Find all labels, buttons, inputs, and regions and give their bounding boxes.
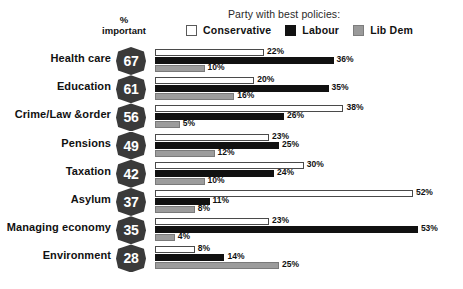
row-label-taxation: Taxation: [66, 165, 111, 177]
row-label-environment: Environment: [43, 249, 111, 261]
bar-value-label: 10%: [208, 62, 225, 72]
legend-swatch-conservative-icon: [186, 25, 197, 36]
chart-row: Education6120%35%16%: [0, 76, 463, 104]
bar-value-label: 5%: [183, 118, 195, 128]
row-label-pensions: Pensions: [61, 137, 111, 149]
importance-caption-line2: important: [93, 25, 155, 36]
bar-value-label: 26%: [287, 110, 304, 120]
bar-conservative: [155, 218, 269, 225]
legend-swatch-libdem-icon: [353, 25, 364, 36]
bar-lib-dem: [155, 65, 205, 72]
bar-value-label: 38%: [346, 102, 363, 112]
bar-value-label: 14%: [227, 251, 244, 261]
chart-legend: Conservative Labour Lib Dem: [186, 24, 427, 36]
legend-title: Party with best policies:: [228, 8, 340, 20]
row-label-crime-law-order: Crime/Law &order: [15, 108, 111, 120]
bar-value-label: 16%: [237, 90, 254, 100]
bar-conservative: [155, 246, 195, 253]
importance-column-caption: % important: [93, 14, 155, 36]
legend-item-labour: Labour: [285, 24, 339, 36]
bar-value-label: 23%: [272, 215, 289, 225]
bar-value-label: 20%: [257, 74, 274, 84]
bar-labour: [155, 113, 284, 120]
row-label-education: Education: [57, 80, 111, 92]
chart-row: Crime/Law &order5638%26%5%: [0, 104, 463, 132]
bar-lib-dem: [155, 178, 205, 185]
chart-canvas: Party with best policies: Conservative L…: [0, 0, 463, 289]
bar-lib-dem: [155, 262, 279, 269]
bar-lib-dem: [155, 234, 175, 241]
chart-row: Pensions4923%25%12%: [0, 133, 463, 161]
chart-row: Taxation4230%24%10%: [0, 161, 463, 189]
bar-lib-dem: [155, 93, 234, 100]
chart-row: Environment288%14%25%: [0, 245, 463, 273]
legend-label-conservative: Conservative: [203, 24, 271, 36]
bar-lib-dem: [155, 121, 180, 128]
bar-value-label: 22%: [267, 46, 284, 56]
importance-badge: 42: [116, 160, 146, 188]
bar-labour: [155, 57, 334, 64]
bar-conservative: [155, 105, 343, 112]
legend-item-libdem: Lib Dem: [353, 24, 413, 36]
bar-value-label: 4%: [178, 231, 190, 241]
bar-labour: [155, 254, 224, 261]
bar-value-label: 25%: [282, 139, 299, 149]
legend-label-labour: Labour: [302, 24, 339, 36]
bar-labour: [155, 226, 418, 233]
row-label-managing-economy: Managing economy: [7, 221, 111, 233]
importance-badge: 61: [116, 75, 146, 103]
chart-row: Asylum3752%11%8%: [0, 189, 463, 217]
bar-value-label: 8%: [198, 243, 210, 253]
bar-value-label: 52%: [416, 187, 433, 197]
bar-value-label: 11%: [213, 195, 230, 205]
importance-badge: 35: [116, 216, 146, 244]
bar-conservative: [155, 190, 413, 197]
bar-conservative: [155, 134, 269, 141]
importance-badge: 37: [116, 188, 146, 216]
importance-badge: 49: [116, 132, 146, 160]
bar-lib-dem: [155, 206, 195, 213]
bar-value-label: 8%: [198, 203, 210, 213]
row-label-health-care: Health care: [51, 52, 111, 64]
importance-badge: 67: [116, 47, 146, 75]
legend-label-libdem: Lib Dem: [370, 24, 413, 36]
importance-caption-line1: %: [93, 14, 155, 25]
importance-badge: 56: [116, 103, 146, 131]
row-label-asylum: Asylum: [71, 193, 111, 205]
bar-value-label: 35%: [332, 82, 349, 92]
legend-item-conservative: Conservative: [186, 24, 271, 36]
bar-lib-dem: [155, 150, 215, 157]
bar-conservative: [155, 77, 254, 84]
bar-value-label: 10%: [208, 175, 225, 185]
importance-badge: 28: [116, 244, 146, 272]
bar-value-label: 25%: [282, 259, 299, 269]
chart-row: Managing economy3523%53%4%: [0, 217, 463, 245]
bar-conservative: [155, 49, 264, 56]
bar-value-label: 36%: [337, 54, 354, 64]
bar-value-label: 12%: [218, 147, 235, 157]
bar-value-label: 53%: [421, 223, 438, 233]
bar-value-label: 24%: [277, 167, 294, 177]
chart-row: Health care6722%36%10%: [0, 48, 463, 76]
legend-swatch-labour-icon: [285, 25, 296, 36]
bar-value-label: 30%: [307, 159, 324, 169]
